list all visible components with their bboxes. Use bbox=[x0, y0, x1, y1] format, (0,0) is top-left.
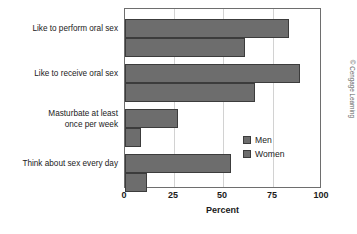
legend-item-women: Women bbox=[243, 148, 284, 160]
bar-women-1 bbox=[125, 83, 255, 102]
plot-area bbox=[124, 8, 321, 188]
category-label-0: Like to perform oral sex bbox=[0, 24, 118, 35]
bar-men-2 bbox=[125, 109, 178, 128]
legend: Men Women bbox=[243, 134, 284, 162]
bar-women-3 bbox=[125, 173, 147, 192]
chart-figure: Like to perform oral sex Like to receive… bbox=[0, 0, 357, 234]
bar-men-0 bbox=[125, 19, 289, 38]
category-label-1: Like to receive oral sex bbox=[0, 69, 118, 80]
legend-label-men: Men bbox=[255, 135, 272, 145]
category-label-3: Think about sex every day bbox=[0, 159, 118, 170]
bar-men-3 bbox=[125, 154, 231, 173]
x-axis-title: Percent bbox=[124, 205, 321, 215]
bar-women-0 bbox=[125, 38, 245, 57]
bar-women-2 bbox=[125, 128, 141, 147]
legend-label-women: Women bbox=[255, 149, 284, 159]
bar-men-1 bbox=[125, 64, 300, 83]
x-tick-50: 50 bbox=[217, 190, 227, 200]
legend-item-men: Men bbox=[243, 134, 284, 146]
x-tick-100: 100 bbox=[313, 190, 328, 200]
copyright-credit: © Cengage Learning bbox=[349, 60, 356, 118]
x-tick-75: 75 bbox=[267, 190, 277, 200]
x-tick-25: 25 bbox=[168, 190, 178, 200]
x-tick-0: 0 bbox=[121, 190, 126, 200]
legend-swatch-women-icon bbox=[243, 150, 251, 158]
category-label-2: Masturbate at least once per week bbox=[0, 109, 118, 130]
legend-swatch-men-icon bbox=[243, 136, 251, 144]
